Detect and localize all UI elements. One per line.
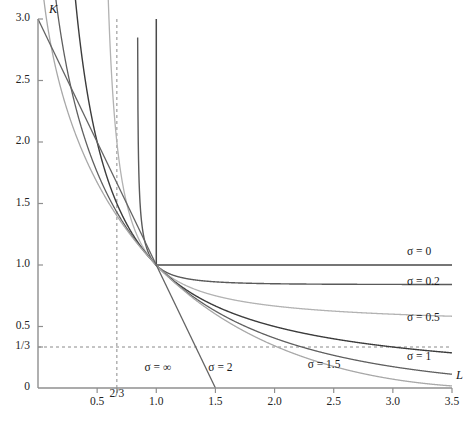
curve-group-sigma-0p2 xyxy=(138,38,452,285)
y-tick-label-0.5: 0.5 xyxy=(16,319,30,331)
y-tick-label-2.5: 2.5 xyxy=(16,73,30,85)
curve-sigma-inf xyxy=(38,19,215,388)
ces-isoquant-chart: σ = 0σ = 0.2σ = 0.5σ = 1σ = 1.5σ = 2σ = … xyxy=(0,0,468,425)
x-tick-label-1.5: 1.5 xyxy=(208,395,222,407)
x-axis-name: L xyxy=(456,368,463,383)
x-tick-label-3.5: 3.5 xyxy=(445,395,459,407)
curve-sigma-0 xyxy=(156,19,452,265)
y-tick-label-0: 0 xyxy=(24,380,30,392)
x-tick-label-2.5: 2.5 xyxy=(327,395,341,407)
curve-label-sigma-0p2: σ = 0.2 xyxy=(407,275,440,287)
curve-label-sigma-2: σ = 2 xyxy=(208,361,232,373)
x-tick-label-2.0: 2.0 xyxy=(267,395,281,407)
curve-sigma-1p5 xyxy=(46,0,452,374)
y-tick-label-1-3: 1/3 xyxy=(15,339,30,351)
chart-canvas xyxy=(0,0,468,425)
curve-label-sigma-inf: σ = ∞ xyxy=(144,361,171,373)
x-tick-label-2-3: 2/3 xyxy=(110,387,125,399)
curve-group-sigma-inf xyxy=(38,19,215,388)
x-tick-label-0.5: 0.5 xyxy=(90,395,104,407)
curve-sigma-1 xyxy=(67,0,452,353)
x-tick-label-1.0: 1.0 xyxy=(149,395,163,407)
curve-group-sigma-1 xyxy=(67,0,452,353)
curve-label-sigma-1p5: σ = 1.5 xyxy=(308,358,341,370)
curve-sigma-0p2 xyxy=(138,38,452,285)
y-tick-label-1.0: 1.0 xyxy=(16,257,30,269)
curve-group-sigma-2 xyxy=(38,0,452,386)
y-axis-name: K xyxy=(49,2,57,17)
curve-sigma-2 xyxy=(38,0,452,386)
y-tick-label-1.5: 1.5 xyxy=(16,196,30,208)
x-tick-label-3.0: 3.0 xyxy=(386,395,400,407)
curve-label-sigma-1: σ = 1 xyxy=(407,350,431,362)
curve-label-sigma-0p5: σ = 0.5 xyxy=(407,311,440,323)
y-tick-label-3.0: 3.0 xyxy=(16,11,30,23)
curve-group-sigma-0 xyxy=(156,19,452,265)
y-tick-label-2.0: 2.0 xyxy=(16,134,30,146)
curve-label-sigma-0: σ = 0 xyxy=(407,245,431,257)
curve-group-sigma-1p5 xyxy=(46,0,452,374)
